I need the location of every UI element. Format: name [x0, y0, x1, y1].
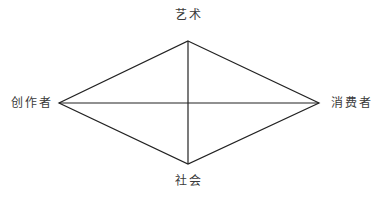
node-label-consumer: 消费者	[331, 96, 373, 110]
node-label-art: 艺术	[175, 8, 203, 22]
diamond-diagram	[0, 0, 381, 199]
node-label-creator: 创作者	[11, 96, 53, 110]
node-label-society: 社会	[175, 174, 203, 188]
